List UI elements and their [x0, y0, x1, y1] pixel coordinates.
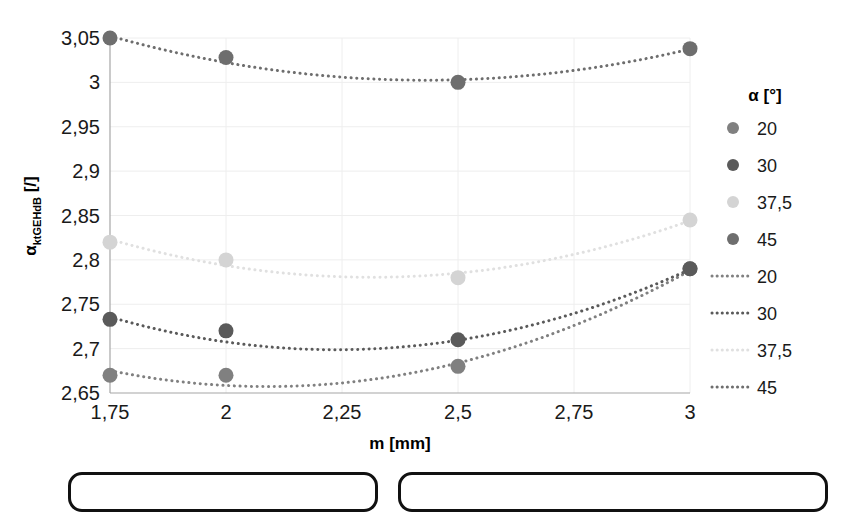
data-point-30 [219, 323, 234, 338]
legend-item-marker-37-5[interactable]: 37,5 [727, 193, 792, 213]
data-point-45 [103, 31, 118, 46]
legend-item-label: 20 [757, 119, 777, 139]
legend-swatch-icon [727, 122, 739, 134]
legend-item-line-45[interactable]: 45 [712, 378, 777, 398]
legend-item-marker-20[interactable]: 20 [727, 119, 777, 139]
legend-marker-entries: 203037,545 [727, 119, 792, 250]
x-tick-label: 2 [220, 401, 231, 423]
x-tick-labels: 1,7522,252,52,753 [91, 401, 696, 423]
data-point-30 [451, 332, 466, 347]
data-point-37-5 [219, 252, 234, 267]
y-axis-title: αktGEHdB [/] [21, 176, 43, 256]
legend-swatch-icon [727, 233, 739, 245]
y-axis-title-unit: [/] [21, 176, 40, 197]
y-tick-label: 3 [89, 71, 100, 93]
legend-item-label: 30 [757, 304, 777, 324]
y-axis-title-subscript: ktGEHdB [31, 197, 43, 245]
data-point-45 [219, 50, 234, 65]
legend-item-marker-45[interactable]: 45 [727, 230, 777, 250]
legend-swatch-icon [727, 196, 739, 208]
legend-item-marker-30[interactable]: 30 [727, 156, 777, 176]
legend-line-entries: 203037,545 [712, 267, 792, 398]
bottom-right-box [398, 472, 828, 512]
data-point-37-5 [103, 235, 118, 250]
x-tick-label: 3 [684, 401, 695, 423]
data-point-20 [451, 359, 466, 374]
y-tick-label: 2,8 [72, 249, 100, 271]
data-point-20 [219, 368, 234, 383]
y-axis-title-text: αktGEHdB [/] [21, 176, 43, 256]
bottom-left-box [68, 472, 378, 512]
y-tick-label: 2,85 [61, 205, 100, 227]
data-point-20 [103, 368, 118, 383]
y-tick-label: 2,7 [72, 338, 100, 360]
legend-item-line-20[interactable]: 20 [712, 267, 777, 287]
legend-item-line-30[interactable]: 30 [712, 304, 777, 324]
y-axis-title-main: α [21, 245, 40, 256]
x-tick-label: 1,75 [91, 401, 130, 423]
y-tick-labels: 2,652,72,752,82,852,92,9533,05 [61, 27, 100, 404]
data-point-30 [683, 261, 698, 276]
x-tick-label: 2,5 [444, 401, 472, 423]
data-point-45 [683, 41, 698, 56]
legend-swatch-icon [727, 159, 739, 171]
legend-item-label: 45 [757, 230, 777, 250]
data-point-45 [451, 75, 466, 90]
y-tick-label: 2,9 [72, 160, 100, 182]
legend-item-label: 45 [757, 378, 777, 398]
legend-item-label: 30 [757, 156, 777, 176]
legend-item-line-37-5[interactable]: 37,5 [712, 341, 792, 361]
data-point-37-5 [683, 212, 698, 227]
data-point-30 [103, 312, 118, 327]
y-tick-label: 3,05 [61, 27, 100, 49]
legend-title: α [°] [748, 86, 781, 105]
legend-item-label: 37,5 [757, 193, 792, 213]
x-axis-title: m [mm] [369, 434, 430, 453]
y-tick-label: 2,95 [61, 116, 100, 138]
legend: α [°] 203037,545 203037,545 [712, 86, 792, 398]
x-tick-label: 2,75 [555, 401, 594, 423]
legend-item-label: 37,5 [757, 341, 792, 361]
y-tick-label: 2,75 [61, 293, 100, 315]
data-point-37-5 [451, 270, 466, 285]
legend-item-label: 20 [757, 267, 777, 287]
x-tick-label: 2,25 [323, 401, 362, 423]
